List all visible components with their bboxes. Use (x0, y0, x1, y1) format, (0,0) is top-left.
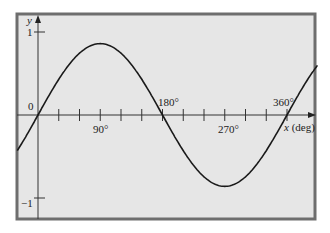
plot-frame (17, 14, 315, 219)
x-axis-label-unit: (deg) (289, 121, 315, 133)
sine-chart (0, 0, 330, 233)
y-tick-label-1: 1 (27, 27, 33, 38)
x-tick-label-90: 90° (93, 124, 108, 135)
x-tick-label-360: 360° (273, 97, 294, 108)
x-axis-label: x (deg) (284, 122, 315, 133)
x-tick-label-270: 270° (218, 124, 239, 135)
y-tick-label-neg1: −1 (21, 198, 33, 209)
x-tick-label-180: 180° (158, 97, 179, 108)
y-axis-label: y (27, 15, 32, 26)
y-tick-label-0: 0 (28, 101, 34, 112)
